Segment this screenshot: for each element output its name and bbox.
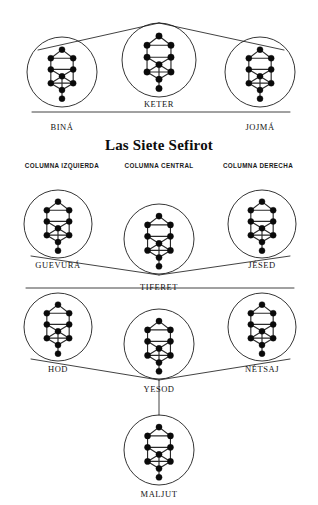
tree-node-n5	[270, 218, 276, 224]
tree-node-n8	[268, 80, 274, 86]
tree-node-n8	[167, 458, 173, 464]
tree-node-n10	[257, 96, 263, 102]
tree-node-n2	[48, 55, 54, 61]
tree-node-n6	[156, 345, 162, 351]
tree-node-n7	[44, 232, 50, 238]
tree-node-n10	[59, 96, 65, 102]
tree-node-n4	[248, 218, 254, 224]
tree-node-n3	[268, 55, 274, 61]
tree-node-n10	[55, 351, 61, 357]
tree-node-n9	[156, 359, 162, 365]
sefira-label-jojma: JOJMÁ	[245, 122, 275, 132]
tree-node-n6	[259, 225, 265, 231]
tree-node-n4	[144, 233, 150, 239]
tree-node-n2	[44, 310, 50, 316]
tree-node-n9	[156, 76, 162, 82]
column-header-right: COLUMNA DERECHA	[223, 162, 293, 169]
sefira-label-tiferet: TIFERET	[140, 282, 178, 292]
tree-node-n7	[144, 247, 150, 253]
sefira-label-maljut: MALJUT	[141, 489, 178, 499]
tree-node-n7	[144, 352, 150, 358]
tree-node-n1	[156, 33, 162, 39]
tree-node-n7	[248, 232, 254, 238]
tree-node-n8	[167, 247, 173, 253]
tree-node-n5	[66, 218, 72, 224]
sefira-label-yesod: YESOD	[143, 384, 174, 394]
tree-node-n9	[257, 87, 263, 93]
tree-node-n7	[248, 335, 254, 341]
tree-node-n1	[156, 213, 162, 219]
tree-node-n10	[156, 263, 162, 269]
column-header-center: COLUMNA CENTRAL	[124, 162, 193, 169]
tree-node-n1	[259, 199, 265, 205]
tree-node-n8	[168, 69, 174, 75]
tree-node-n1	[55, 199, 61, 205]
sefira-label-hod: HOD	[48, 364, 68, 374]
column-header-layer: COLUMNA IZQUIERDACOLUMNA CENTRALCOLUMNA …	[25, 162, 293, 170]
tree-node-n2	[144, 222, 150, 228]
tree-node-n1	[259, 302, 265, 308]
tree-node-n6	[156, 240, 162, 246]
tree-node-n4	[48, 66, 54, 72]
tree-node-n7	[144, 69, 150, 75]
tree-node-n5	[168, 54, 174, 60]
tree-node-n9	[156, 465, 162, 471]
tree-node-n6	[59, 73, 65, 79]
tree-node-n8	[66, 232, 72, 238]
tree-node-n3	[270, 310, 276, 316]
tree-node-n9	[259, 342, 265, 348]
tree-node-n5	[167, 233, 173, 239]
tree-node-n2	[44, 207, 50, 213]
sefira-label-keter: KETER	[144, 99, 174, 109]
tree-node-n2	[246, 55, 252, 61]
diagram-canvas: BINÁKETERJOJMÁGUEVURÁTIFERETJÉSEDHODYESO…	[0, 0, 318, 505]
tree-node-n6	[156, 61, 162, 67]
tree-node-n4	[44, 321, 50, 327]
tree-node-n7	[144, 458, 150, 464]
tree-node-n9	[55, 239, 61, 245]
tree-node-n10	[156, 368, 162, 374]
sefira-label-bina: BINÁ	[51, 122, 74, 132]
tree-node-n3	[168, 42, 174, 48]
tree-node-n8	[66, 335, 72, 341]
tree-node-n2	[144, 42, 150, 48]
sefirot-diagram: BINÁKETERJOJMÁGUEVURÁTIFERETJÉSEDHODYESO…	[0, 0, 318, 505]
tree-node-n5	[268, 66, 274, 72]
tree-node-n10	[259, 248, 265, 254]
tree-node-n3	[167, 433, 173, 439]
tree-node-n6	[156, 451, 162, 457]
sefira-label-jesed: JÉSED	[248, 260, 275, 270]
tree-node-n7	[246, 80, 252, 86]
tree-node-n2	[144, 433, 150, 439]
tree-node-n6	[55, 225, 61, 231]
tree-node-n4	[246, 66, 252, 72]
tree-node-n5	[270, 321, 276, 327]
tree-node-n2	[248, 207, 254, 213]
tree-node-n10	[259, 351, 265, 357]
tree-node-n9	[59, 87, 65, 93]
tree-node-n3	[66, 310, 72, 316]
tree-node-n2	[248, 310, 254, 316]
tree-node-n6	[259, 328, 265, 334]
tree-node-n2	[144, 327, 150, 333]
tree-node-n4	[144, 54, 150, 60]
tree-node-n3	[167, 327, 173, 333]
tree-node-n8	[167, 352, 173, 358]
tree-node-n10	[156, 474, 162, 480]
tree-node-n3	[167, 222, 173, 228]
tree-node-n9	[55, 342, 61, 348]
tree-node-n10	[156, 85, 162, 91]
tree-node-n10	[55, 248, 61, 254]
tree-node-n3	[70, 55, 76, 61]
tree-node-n6	[55, 328, 61, 334]
tree-node-n9	[156, 254, 162, 260]
tree-node-n1	[156, 424, 162, 430]
page-title: Las Siete Sefirot	[105, 137, 213, 153]
tree-node-n9	[259, 239, 265, 245]
column-header-left: COLUMNA IZQUIERDA	[25, 162, 99, 170]
tree-node-n4	[44, 218, 50, 224]
tree-node-n5	[70, 66, 76, 72]
tree-node-n3	[66, 207, 72, 213]
tree-node-n7	[48, 80, 54, 86]
sefira-label-guevura: GUEVURÁ	[35, 260, 81, 270]
